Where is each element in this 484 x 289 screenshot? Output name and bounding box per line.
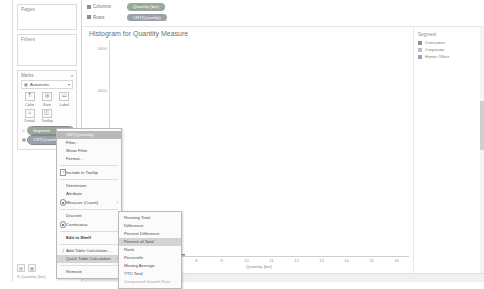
x-axis-tick: 12	[294, 258, 299, 263]
rows-shelf-field[interactable]: CNT(Quantity)	[127, 14, 479, 22]
submenu-item-label: Percentile	[122, 255, 178, 261]
menu-item-filter[interactable]: Filter...	[57, 139, 121, 147]
menu-separator	[60, 231, 118, 232]
columns-pill-quantity-bin[interactable]: Quantity (bin)	[127, 3, 165, 11]
submenu-item-percent-difference[interactable]: Percent Difference	[119, 230, 181, 238]
menu-item-add-table-calculation[interactable]: ƒAdd Table Calculation...	[57, 247, 121, 255]
columns-shelf[interactable]: Columns Quantity (bin)	[87, 3, 479, 11]
bar-slot	[210, 40, 235, 256]
rows-shelf[interactable]: Rows CNT(Quantity)	[87, 14, 479, 22]
menu-item-measure-count[interactable]: Measure (Count)›	[57, 198, 121, 207]
menu-item-label: Show Filter	[66, 148, 118, 154]
menu-item-include-in-tooltip[interactable]: ✓Include in Tooltip	[57, 168, 121, 177]
grid-icon[interactable]: ▦	[28, 264, 36, 272]
bar-slot	[284, 40, 309, 256]
marks-type-icon: ▦	[24, 82, 28, 87]
x-axis-tick: 11	[269, 258, 273, 263]
marks-button-size[interactable]: ◎ Size	[38, 91, 55, 108]
context-menu-header: CNT(Quantity)	[57, 131, 121, 139]
submenu-item-difference[interactable]: Difference	[119, 222, 181, 230]
marks-button-label[interactable]: ▭ Label	[56, 91, 73, 108]
bar-slot	[185, 40, 210, 256]
menu-separator	[60, 265, 118, 266]
chevron-down-icon: ▾	[68, 82, 70, 87]
submenu-item-ytd-total[interactable]: YTD Total	[119, 270, 181, 278]
rows-icon[interactable]: ▤	[17, 264, 25, 272]
menu-item-label: Continuous	[66, 222, 118, 228]
submenu-item-percentile[interactable]: Percentile	[119, 254, 181, 262]
chevron-down-icon[interactable]: ▾	[71, 73, 73, 78]
shelves-area: Columns Quantity (bin) Rows CNT(Quantity…	[82, 0, 484, 27]
menu-item-remove[interactable]: Remove	[57, 268, 121, 276]
legend-item-corporate[interactable]: Corporate	[418, 47, 480, 52]
marks-buttons: T Color ◎ Size ▭ Label ⌂ Detail ◫ Tool	[18, 91, 76, 126]
menu-item-label: Include in Tooltip	[66, 170, 118, 176]
marks-button-label: Tooltip	[41, 118, 53, 123]
marks-button-color[interactable]: T Color	[21, 91, 38, 108]
submenu-item-percent-of-total[interactable]: Percent of Total	[119, 238, 181, 246]
filters-shelf-drop[interactable]	[18, 43, 76, 65]
tooltip-icon: ◫	[42, 109, 52, 118]
bar-slot	[309, 40, 334, 256]
menu-item-label: Discrete	[66, 213, 118, 219]
submenu-item-label: Running Total	[122, 215, 178, 221]
marks-card-title: Marks	[21, 73, 34, 78]
submenu-item-label: YTD Total	[122, 271, 178, 277]
submenu-item-label: Moving Average	[122, 263, 178, 269]
menu-item-label: Quick Table Calculation	[66, 256, 115, 262]
pages-shelf-drop[interactable]	[18, 13, 76, 29]
submenu-item-rank[interactable]: Rank	[119, 246, 181, 254]
y-axis-tick: 4000	[98, 88, 107, 93]
marks-button-label: Color	[25, 102, 35, 107]
rows-pill-cnt-quantity[interactable]: CNT(Quantity)	[127, 14, 167, 22]
page-title: Histogram for Quantity Measure	[89, 30, 409, 37]
menu-item-label: Measure (Count)	[66, 200, 115, 206]
marks-button-label: Size	[43, 102, 51, 107]
menu-item-continuous[interactable]: Continuous	[57, 220, 121, 229]
context-menu-header-label: CNT(Quantity)	[66, 132, 118, 138]
y-axis-tick: 5000	[98, 46, 107, 51]
marks-card-header: Marks ▾	[18, 71, 76, 79]
chevron-right-icon: ›	[117, 200, 118, 205]
filters-shelf[interactable]: Filters	[17, 34, 77, 66]
submenu-item-running-total[interactable]: Running Total	[119, 214, 181, 222]
legend-title: Segment	[418, 32, 480, 37]
marks-type-label: Automatic	[30, 82, 50, 87]
field-context-menu[interactable]: CNT(Quantity)Filter...Show FilterFormat.…	[56, 128, 122, 279]
menu-item-dimension[interactable]: Dimension	[57, 182, 121, 190]
submenu-item-moving-average[interactable]: Moving Average	[119, 262, 181, 270]
pages-shelf[interactable]: Pages	[17, 4, 77, 30]
marks-button-tooltip[interactable]: ◫ Tooltip	[38, 108, 55, 125]
menu-item-attribute[interactable]: Attribute	[57, 190, 121, 198]
menu-item-label: Format...	[66, 156, 118, 162]
x-axis-label: Quantity (bin)	[246, 264, 272, 269]
bar-slot	[235, 40, 260, 256]
columns-shelf-field[interactable]: Quantity (bin)	[127, 3, 479, 11]
menu-item-quick-table-calculation[interactable]: Quick Table Calculation›	[57, 255, 121, 263]
detail-icon: ⌂	[25, 109, 35, 118]
bar-slot	[359, 40, 384, 256]
submenu-item-compound-growth-rate[interactable]: Compound Growth Rate	[119, 278, 181, 286]
quick-table-calculation-submenu[interactable]: Running TotalDifferencePercent Differenc…	[118, 211, 182, 289]
menu-item-edit-in-shelf[interactable]: Edit in Shelf	[57, 234, 121, 242]
menu-item-label: Edit in Shelf	[66, 235, 118, 241]
menu-item-format[interactable]: Format...	[57, 155, 121, 163]
vertical-scrollbar[interactable]	[480, 27, 484, 273]
rows-icon	[87, 15, 91, 19]
legend-item-consumer[interactable]: Consumer	[418, 40, 480, 45]
menu-item-label: Add Table Calculation...	[66, 248, 118, 254]
marks-button-label: Detail	[25, 118, 35, 123]
marks-type-dropdown[interactable]: ▦ Automatic ▾	[21, 80, 73, 89]
x-axis-tick: 14	[344, 258, 349, 263]
menu-item-discrete[interactable]: Discrete	[57, 212, 121, 220]
menu-separator	[60, 179, 118, 180]
scrollbar-thumb[interactable]	[480, 101, 484, 150]
color-icon: T	[25, 92, 35, 101]
marks-button-detail[interactable]: ⌂ Detail	[21, 108, 38, 125]
legend-label: Consumer	[425, 40, 445, 45]
menu-separator	[60, 244, 118, 245]
menu-item-show-filter[interactable]: Show Filter	[57, 147, 121, 155]
rows-label-text: Rows	[93, 15, 105, 20]
legend-item-home-office[interactable]: Home Office	[418, 54, 480, 59]
legend-swatch	[418, 41, 422, 45]
